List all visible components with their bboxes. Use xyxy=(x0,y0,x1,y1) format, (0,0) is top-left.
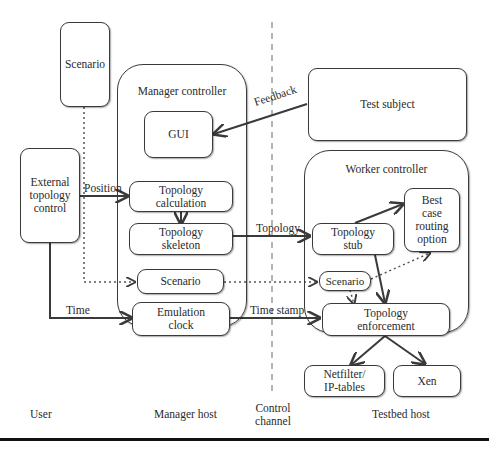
edge-enforcement-netfilter xyxy=(351,336,385,365)
edge-label-time: Time xyxy=(66,304,90,316)
edge-label-time-stamp: Time stamp xyxy=(250,304,304,316)
scenario-manager-box: Scenario xyxy=(137,269,224,294)
test-subject-box: Test subject xyxy=(308,68,467,141)
manager-controller-title: Manager controller xyxy=(118,85,246,97)
worker-controller-title: Worker controller xyxy=(305,163,468,175)
area-label-control-channel: Control channel xyxy=(253,402,293,428)
topology-stub-box: Topology stub xyxy=(312,223,394,255)
edge-label-topology: Topology xyxy=(256,222,300,234)
xen-box: Xen xyxy=(393,365,461,397)
area-label-manager-host: Manager host xyxy=(154,408,217,421)
emulation-clock-box: Emulation clock xyxy=(132,302,230,336)
scenario-user-box: Scenario xyxy=(60,22,110,107)
gui-box: GUI xyxy=(144,111,213,158)
area-label-user: User xyxy=(30,408,52,421)
topology-calculation-box: Topology calculation xyxy=(129,181,233,212)
netfilter-iptables-box: Netfilter/ IP-tables xyxy=(304,365,385,397)
topology-enforcement-box: Topology enforcement xyxy=(322,303,450,336)
edge-label-position: Position xyxy=(84,182,122,194)
scenario-worker-box: Scenario xyxy=(319,271,371,291)
bottom-rule xyxy=(0,438,489,441)
area-label-testbed-host: Testbed host xyxy=(372,408,430,421)
best-case-routing-option-box: Best case routing option xyxy=(404,188,460,252)
topology-skeleton-box: Topology skeleton xyxy=(129,223,233,255)
external-topology-control-box: External topology control xyxy=(20,148,80,243)
edge-enforcement-xen xyxy=(385,336,425,364)
